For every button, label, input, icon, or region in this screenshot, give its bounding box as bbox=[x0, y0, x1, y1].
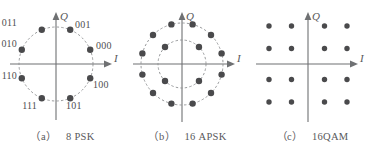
constellation-point bbox=[218, 71, 224, 77]
constellation-point bbox=[168, 21, 174, 27]
constellation-figure: 000 001 011 010 110 111 101 100 I Q （a）8… bbox=[0, 0, 376, 155]
constellation-point bbox=[139, 50, 145, 56]
caption-text-a: 8 PSK bbox=[66, 131, 95, 142]
constellation-point bbox=[208, 32, 214, 38]
constellation-point bbox=[218, 50, 224, 56]
caption-16apsk: （b）16 APSK bbox=[125, 128, 250, 143]
caption-index-a: （a） bbox=[30, 131, 56, 142]
bit-label-001: 001 bbox=[75, 19, 91, 30]
caption-text-b: 16 APSK bbox=[184, 131, 226, 142]
constellation-point bbox=[39, 27, 45, 33]
constellation-point bbox=[322, 23, 327, 28]
panel-16apsk: I Q （b）16 APSK bbox=[125, 0, 250, 155]
bit-label-101: 101 bbox=[66, 100, 82, 111]
constellation-point bbox=[162, 78, 168, 84]
panel-8psk: 000 001 011 010 110 111 101 100 I Q （a）8… bbox=[0, 0, 125, 155]
i-axis-arrowhead bbox=[350, 61, 358, 68]
constellation-point bbox=[344, 23, 349, 28]
constellation-point bbox=[322, 77, 327, 82]
bit-label-011: 011 bbox=[2, 17, 17, 28]
q-axis-arrowhead bbox=[305, 12, 312, 20]
constellation-point bbox=[266, 77, 271, 82]
plot-16qam: I Q bbox=[250, 0, 375, 128]
plot-16apsk: I Q bbox=[125, 0, 250, 128]
constellation-svg-16qam: I Q bbox=[250, 0, 375, 128]
constellation-point bbox=[67, 27, 73, 33]
constellation-point bbox=[266, 46, 271, 51]
caption-index-b: （b） bbox=[148, 131, 175, 142]
constellation-point bbox=[168, 100, 174, 106]
constellation-point bbox=[39, 95, 45, 101]
constellation-point bbox=[289, 77, 294, 82]
q-axis-label: Q bbox=[60, 10, 68, 22]
constellation-svg-16apsk: I Q bbox=[125, 0, 250, 128]
constellation-point bbox=[289, 99, 294, 104]
q-axis-arrowhead bbox=[53, 12, 60, 20]
caption-16qam: （c）16QAM bbox=[250, 128, 375, 143]
i-axis-label: I bbox=[113, 52, 119, 64]
constellation-svg-8psk: 000 001 011 010 110 111 101 100 I Q bbox=[0, 0, 125, 128]
constellation-point bbox=[87, 47, 93, 53]
constellation-point bbox=[162, 44, 168, 50]
constellation-point bbox=[344, 46, 349, 51]
i-axis-label: I bbox=[236, 52, 242, 64]
constellation-point bbox=[150, 32, 156, 38]
panel-16qam: I Q （c）16QAM bbox=[250, 0, 375, 155]
constellation-point bbox=[322, 46, 327, 51]
constellation-point bbox=[266, 23, 271, 28]
constellation-point bbox=[196, 44, 202, 50]
constellation-point bbox=[19, 75, 25, 81]
bit-label-010: 010 bbox=[1, 38, 17, 49]
constellation-point bbox=[139, 71, 145, 77]
q-axis-label: Q bbox=[186, 10, 194, 22]
bit-label-110: 110 bbox=[2, 70, 17, 81]
constellation-point bbox=[19, 47, 25, 53]
plot-8psk: 000 001 011 010 110 111 101 100 I Q bbox=[0, 0, 125, 128]
constellation-point bbox=[289, 23, 294, 28]
caption-index-c: （c） bbox=[277, 131, 303, 142]
i-axis-arrowhead bbox=[104, 61, 112, 68]
constellation-point bbox=[150, 90, 156, 96]
constellation-point bbox=[344, 77, 349, 82]
constellation-point bbox=[189, 21, 195, 27]
constellation-point bbox=[208, 90, 214, 96]
bit-label-000: 000 bbox=[96, 40, 112, 51]
bit-label-100: 100 bbox=[93, 79, 109, 90]
i-axis-arrowhead bbox=[227, 61, 235, 68]
caption-text-c: 16QAM bbox=[312, 131, 349, 142]
constellation-point bbox=[289, 46, 294, 51]
caption-8psk: （a）8 PSK bbox=[0, 128, 125, 143]
constellation-point bbox=[196, 78, 202, 84]
q-axis-label: Q bbox=[312, 10, 320, 22]
constellation-point bbox=[322, 99, 327, 104]
constellation-point bbox=[189, 100, 195, 106]
i-axis-label: I bbox=[359, 52, 365, 64]
constellation-point bbox=[344, 99, 349, 104]
bit-label-111: 111 bbox=[22, 100, 37, 111]
q-axis-arrowhead bbox=[179, 12, 186, 20]
constellation-point bbox=[266, 99, 271, 104]
